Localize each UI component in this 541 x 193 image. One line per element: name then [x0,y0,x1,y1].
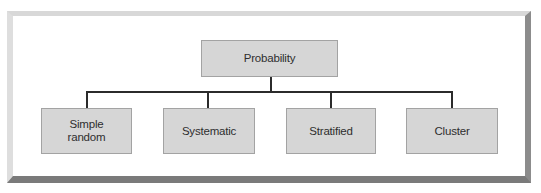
connector-systematic [207,91,209,108]
node-label: Probability [244,52,296,65]
node-probability: Probability [201,40,338,77]
node-systematic: Systematic [163,108,255,154]
connector-cluster [451,91,453,108]
connector-horizontal-bus [86,91,453,93]
connector-stratified [330,91,332,108]
node-label: Cluster [434,125,469,138]
connector-root-stem [270,77,272,92]
node-cluster: Cluster [406,108,498,154]
node-label: Simple random [62,118,112,144]
node-label: Stratified [309,125,352,138]
connector-simple-random [86,91,88,108]
node-label: Systematic [182,125,236,138]
node-stratified: Stratified [286,108,376,154]
node-simple-random: Simple random [41,108,132,154]
